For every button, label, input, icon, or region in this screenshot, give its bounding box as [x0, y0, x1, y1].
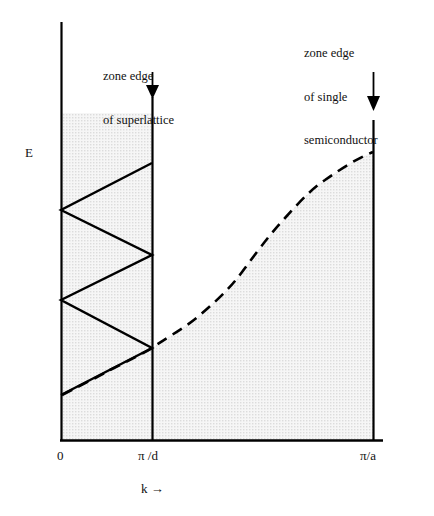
annotation-zone-edge-single-semiconductor: zone edge of single semiconductor	[304, 17, 378, 177]
annotation-zone-edge-superlattice: zone edge of superlattice	[103, 40, 174, 156]
annotation-line: zone edge	[304, 46, 378, 61]
x-tick-label-pi-over-a: π/a	[360, 448, 376, 464]
y-axis-label: E	[25, 145, 33, 161]
shaded-region-single-semiconductor	[152, 152, 373, 440]
x-axis-label: k →	[141, 481, 164, 497]
x-tick-label-pi-over-d: π /d	[138, 448, 158, 464]
annotation-line: zone edge	[103, 69, 174, 84]
annotation-line: of superlattice	[103, 113, 174, 128]
x-tick-label-0: 0	[57, 448, 64, 464]
figure-canvas: zone edge of superlattice zone edge of s…	[0, 0, 434, 516]
annotation-line: semiconductor	[304, 133, 378, 148]
annotation-line: of single	[304, 90, 378, 105]
